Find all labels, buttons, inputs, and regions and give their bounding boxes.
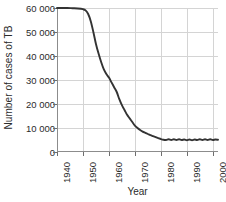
x-axis-tick-label: 1980 [165, 162, 176, 183]
y-axis-tick-label: 50 000 [15, 27, 55, 38]
x-axis-tick [187, 152, 188, 156]
x-axis-tick-label: 1990 [191, 162, 202, 183]
x-axis-tick [161, 152, 162, 156]
x-axis-tick-label: 2000 [217, 162, 226, 183]
series-line-path [57, 8, 218, 140]
y-axis-tick-label: 10 000 [15, 123, 55, 134]
y-axis-tick-label: 20 000 [15, 99, 55, 110]
x-axis-title: Year [57, 186, 218, 197]
x-axis-tick [57, 152, 58, 156]
x-axis-tick-label: 1970 [139, 162, 150, 183]
y-axis-title: Number of cases of TB [0, 0, 16, 155]
x-axis-tick [213, 152, 214, 156]
y-axis-title-text: Number of cases of TB [3, 25, 14, 129]
plot-area [57, 8, 218, 152]
y-axis-tick-labels: 010 00020 00030 00040 00050 00060 000 [15, 0, 55, 160]
x-axis-tick-labels: 1940195019601970198019902000 [57, 157, 222, 187]
y-axis-tick-label: 30 000 [15, 75, 55, 86]
x-axis-tick [135, 152, 136, 156]
y-axis-tick-label: 40 000 [15, 51, 55, 62]
data-series-tb-cases [57, 8, 218, 152]
x-axis-tick-label: 1950 [87, 162, 98, 183]
tb-cases-line-chart: Number of cases of TB 010 00020 00030 00… [0, 0, 226, 202]
y-axis-tick-label: 0 [15, 147, 55, 158]
x-axis-tick [83, 152, 84, 156]
y-axis-tick-label: 60 000 [15, 3, 55, 14]
x-axis-tick [109, 152, 110, 156]
x-axis-tick-label: 1960 [113, 162, 124, 183]
x-axis-tick-label: 1940 [61, 162, 72, 183]
